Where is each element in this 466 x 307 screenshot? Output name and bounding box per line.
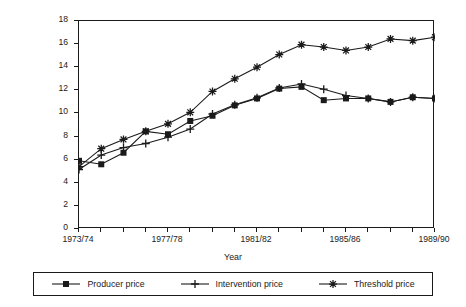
x-axis-tick xyxy=(390,228,391,232)
legend-label: Producer price xyxy=(87,279,144,289)
data-point-asterisk xyxy=(298,41,306,49)
data-point-asterisk xyxy=(164,120,172,128)
x-axis-tick xyxy=(345,228,346,232)
x-axis-tick xyxy=(234,228,235,232)
legend-entry: Intervention price xyxy=(180,278,283,290)
data-point-asterisk xyxy=(431,33,435,41)
x-axis-tick xyxy=(278,228,279,232)
data-point-plus xyxy=(191,280,199,288)
data-point-asterisk xyxy=(364,43,372,51)
x-axis-tick xyxy=(212,228,213,232)
x-axis-tick xyxy=(301,228,302,232)
data-point-filled-square xyxy=(321,97,327,103)
data-point-asterisk xyxy=(329,280,337,288)
legend-label: Threshold price xyxy=(354,279,415,289)
y-axis-tick-label: 8 xyxy=(42,131,68,140)
x-axis-tick xyxy=(78,228,79,232)
data-point-asterisk xyxy=(97,145,105,153)
plot-area xyxy=(78,20,434,228)
x-axis-tick xyxy=(256,228,257,232)
legend-marker-plus xyxy=(180,278,210,290)
data-point-asterisk xyxy=(320,43,328,51)
data-point-plus xyxy=(320,85,328,93)
data-point-asterisk xyxy=(342,46,350,54)
data-point-filled-square xyxy=(98,161,104,167)
data-point-asterisk xyxy=(142,127,150,135)
series-line xyxy=(79,37,435,166)
data-point-filled-square xyxy=(63,281,69,287)
y-axis-tick-label: 16 xyxy=(42,38,68,47)
y-axis-tick-label: 6 xyxy=(42,154,68,163)
x-axis-tick-label: 1989/90 xyxy=(418,234,449,244)
y-axis-tick-label: 18 xyxy=(42,15,68,24)
plot-series-svg xyxy=(79,21,435,229)
data-point-plus xyxy=(186,125,194,133)
legend-marker-filled-square xyxy=(51,278,81,290)
x-axis-tick xyxy=(434,228,435,232)
legend-marker-asterisk xyxy=(318,278,348,290)
data-point-asterisk xyxy=(253,63,261,71)
y-axis-tick-label: 0 xyxy=(42,223,68,232)
x-axis-tick xyxy=(189,228,190,232)
y-axis-tick-label: 2 xyxy=(42,200,68,209)
data-point-asterisk xyxy=(120,135,128,143)
data-point-filled-square xyxy=(187,118,193,124)
x-axis-tick-label: 1985/86 xyxy=(329,234,360,244)
chart-legend: Producer priceIntervention priceThreshol… xyxy=(33,272,433,296)
data-point-asterisk xyxy=(387,35,395,43)
y-axis-tick-label: 12 xyxy=(42,84,68,93)
x-axis-tick xyxy=(167,228,168,232)
x-axis-tick-label: 1981/82 xyxy=(240,234,271,244)
data-point-asterisk xyxy=(409,37,417,45)
x-axis-tick xyxy=(323,228,324,232)
chart-figure: £/100 kg 024681012141618 1973/741977/781… xyxy=(0,0,466,307)
data-point-asterisk xyxy=(231,75,239,83)
y-axis-tick-label: 14 xyxy=(42,61,68,70)
y-axis-tick-label: 10 xyxy=(42,107,68,116)
x-axis-tick xyxy=(412,228,413,232)
x-axis-tick xyxy=(145,228,146,232)
x-axis-tick-label: 1973/74 xyxy=(62,234,93,244)
x-axis-tick xyxy=(100,228,101,232)
data-point-asterisk xyxy=(209,87,217,95)
legend-entry: Threshold price xyxy=(318,278,415,290)
data-point-asterisk xyxy=(186,108,194,116)
legend-label: Intervention price xyxy=(216,279,283,289)
legend-entry: Producer price xyxy=(51,278,144,290)
data-point-plus xyxy=(142,139,150,147)
x-axis-tick xyxy=(123,228,124,232)
x-axis-title: Year xyxy=(0,252,466,262)
y-axis-tick-label: 4 xyxy=(42,177,68,186)
data-point-asterisk xyxy=(275,51,283,59)
x-axis-tick xyxy=(367,228,368,232)
x-axis-tick-label: 1977/78 xyxy=(151,234,182,244)
